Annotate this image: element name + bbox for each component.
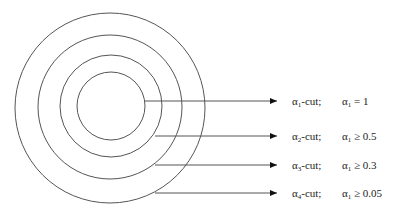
alpha-2-condition: α1 ≥ 0.5 xyxy=(342,130,377,142)
cut-suffix: -cut; xyxy=(301,187,321,199)
alpha-2-circle xyxy=(60,55,162,157)
condition-relation: ≥ 0.5 xyxy=(351,130,376,142)
cut-suffix: -cut; xyxy=(301,95,321,107)
nested-circles xyxy=(15,13,205,203)
alpha-4-cut-label: α4-cut; xyxy=(292,187,321,199)
cut-suffix: -cut; xyxy=(301,130,321,142)
alpha-1-cut-label: α1-cut; xyxy=(292,95,321,107)
alpha-1-circle xyxy=(77,72,145,140)
condition-relation: ≥ 0.3 xyxy=(351,159,376,171)
condition-relation: = 1 xyxy=(351,95,368,107)
condition-relation: ≥ 0.05 xyxy=(351,187,382,199)
cut-suffix: -cut; xyxy=(301,159,321,171)
cut-arrows xyxy=(145,101,277,193)
alpha-2-cut-label: α2-cut; xyxy=(292,130,321,142)
alpha-3-cut-label: α3-cut; xyxy=(292,159,321,171)
alpha-1-condition: α1 = 1 xyxy=(342,95,368,107)
alpha-4-condition: α1 ≥ 0.05 xyxy=(342,187,382,199)
alpha-3-condition: α1 ≥ 0.3 xyxy=(342,159,377,171)
alpha-4-circle xyxy=(15,13,205,203)
alpha-cut-diagram xyxy=(0,0,393,213)
